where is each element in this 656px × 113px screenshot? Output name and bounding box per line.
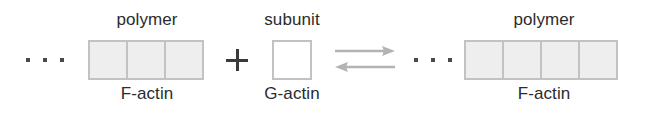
reverse-arrow-icon [335,62,395,72]
subunit-top-label: subunit [240,10,344,30]
actin-polymerization-diagram: polymer F-actin subunit G-actin [0,0,656,113]
right-polymer-top-label: polymer [464,10,624,30]
left-ellipsis [26,57,64,63]
subunit-bottom-label: G-actin [240,84,344,104]
equilibrium-arrows-icon [334,43,396,77]
actin-subunit-cell [578,40,618,80]
left-polymer-chain [88,40,204,80]
right-polymer-bottom-label: F-actin [464,84,624,104]
ellipsis-dot [448,58,452,62]
ellipsis-dot [431,58,435,62]
forward-arrow-icon [335,46,395,56]
actin-subunit-cell [464,40,504,80]
actin-subunit-cell [540,40,580,80]
left-polymer-top-label: polymer [88,10,206,30]
g-actin-subunit-box [272,40,312,80]
left-polymer-bottom-label: F-actin [88,84,206,104]
right-ellipsis [414,57,452,63]
actin-subunit-cell [88,40,128,80]
right-polymer-chain [464,40,618,80]
plus-sign [226,49,248,71]
actin-subunit-cell [126,40,166,80]
actin-subunit-cell [502,40,542,80]
actin-subunit-cell [272,40,312,80]
ellipsis-dot [43,58,47,62]
ellipsis-dot [60,58,64,62]
ellipsis-dot [414,58,418,62]
ellipsis-dot [26,58,30,62]
actin-subunit-cell [164,40,204,80]
